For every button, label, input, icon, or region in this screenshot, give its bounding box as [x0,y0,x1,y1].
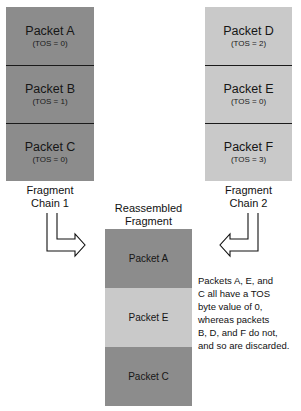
note-line: byte value of 0, [198,300,301,313]
reassembled-label: Reassembled Fragment [105,202,192,228]
explanation-note: Packets A, E, and C all have a TOS byte … [198,274,301,352]
packet-name: Packet C [128,370,169,384]
note-line: B, D, and F do not, [198,326,301,339]
note-line: Packets A, E, and [198,274,301,287]
packet-name: Packet A [129,252,168,266]
packet-name: Packet E [128,311,168,325]
reassembled-packet-e: Packet E [105,288,192,347]
reassembled-label-line1: Reassembled [105,202,192,215]
reassembled-fragment: Packet A Packet E Packet C [105,229,192,406]
note-line: and so are discarded. [198,339,301,352]
note-line: C all have a TOS [198,287,301,300]
note-line: whereas packets [198,313,301,326]
reassembled-packet-a: Packet A [105,229,192,288]
reassembled-label-line2: Fragment [105,215,192,228]
reassembled-packet-c: Packet C [105,347,192,406]
